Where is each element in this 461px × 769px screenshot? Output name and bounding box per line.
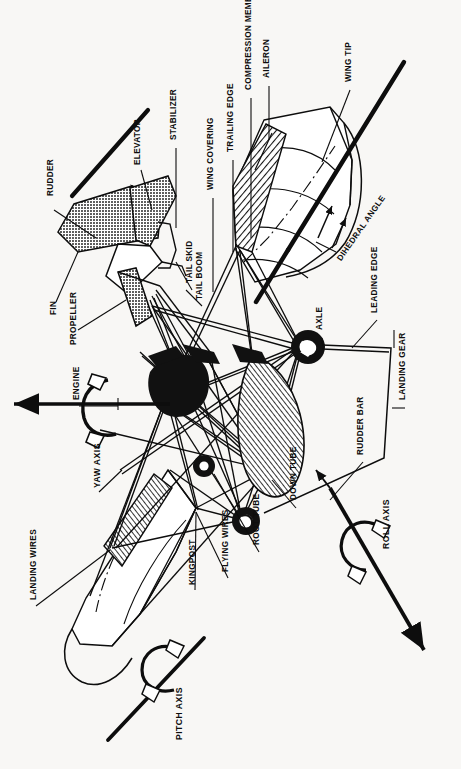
label-leading-edge: LEADING EDGE [371, 246, 379, 313]
label-flying-wires: FLYING WIRES [222, 509, 230, 572]
label-elevator: ELEVATOR [134, 119, 142, 165]
diagram-canvas: RUDDERFINPROPELLERELEVATORSTABILIZERTAIL… [0, 0, 461, 769]
label-tail-boom: TAIL BOOM [196, 252, 204, 300]
label-yaw-axis: YAW AXIS [93, 443, 102, 488]
label-roll-axis: ROLL AXIS [382, 499, 391, 549]
tail-wheel [193, 455, 215, 477]
label-compression-member: COMPRESSION MEMBER [245, 0, 253, 90]
label-wing-covering: WING COVERING [207, 117, 215, 190]
label-landing-wires: LANDING WIRES [30, 529, 38, 600]
label-trailing-edge: TRAILING EDGE [227, 83, 235, 152]
label-pitch-axis: PITCH AXIS [175, 687, 184, 740]
label-landing-gear: LANDING GEAR [399, 333, 407, 400]
label-root-tube: ROOT TUBE [253, 494, 261, 545]
label-fin: FIN [50, 301, 58, 315]
label-aileron: AILERON [263, 39, 271, 78]
label-tail-skid: TAIL SKID [186, 241, 194, 283]
label-wing-tip: WING TIP [345, 42, 353, 82]
label-kingpost: KINGPOST [189, 539, 197, 585]
label-propeller: PROPELLER [70, 292, 78, 345]
main-wheel [291, 330, 325, 364]
label-rudder: RUDDER [47, 159, 55, 196]
engine-mass [148, 344, 220, 417]
label-down-tube: DOWN TUBE [290, 446, 298, 500]
yaw-axis-indicator [14, 374, 170, 448]
label-axle: AXLE [316, 307, 324, 330]
pitch-axis-indicator [108, 638, 204, 740]
label-rudder-bar: RUDDER BAR [357, 396, 365, 455]
label-engine: ENGINE [73, 367, 81, 401]
label-stabilizer: STABILIZER [170, 89, 178, 140]
